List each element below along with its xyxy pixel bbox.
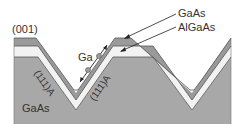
substrate-label: GaAs <box>22 103 50 114</box>
gaas-layer-label: GaAs <box>178 8 206 19</box>
algaas-layer-label: AlGaAs <box>178 22 215 33</box>
ga-adatom-2 <box>86 68 91 73</box>
diagram-canvas: (001) GaAs AlGaAs Ga GaAs (111)A (111)A <box>0 0 244 131</box>
ga-adatom-1 <box>97 54 102 59</box>
ga-adatom-label: Ga <box>78 52 93 63</box>
leader-gaas <box>125 14 176 38</box>
orientation-label: (001) <box>12 24 38 35</box>
